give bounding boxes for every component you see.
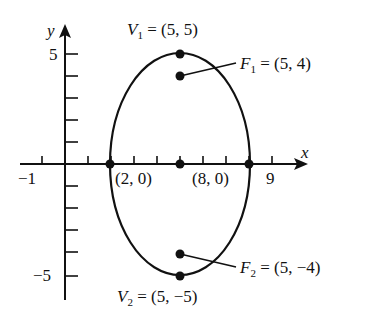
point-f1 <box>176 72 185 81</box>
f2-label: F2 = (5, −4) <box>239 258 320 279</box>
ellipse-diagram: y x 5 −5 −1 9 (2, 0) (8, 0) V1 = (5, 5) … <box>0 0 378 317</box>
right-point-label: (8, 0) <box>192 169 229 188</box>
v2-label: V2 = (5, −5) <box>117 287 197 308</box>
point-right <box>245 160 254 169</box>
point-v1 <box>176 50 185 59</box>
x-tick-label-9: 9 <box>266 169 275 188</box>
f1-leader-line <box>180 63 236 76</box>
left-point-label: (2, 0) <box>115 169 152 188</box>
x-axis-label: x <box>300 143 309 162</box>
f1-label: F1 = (5, 4) <box>239 54 311 75</box>
y-tick-label-5: 5 <box>49 45 58 64</box>
y-tick-label-neg5: −5 <box>33 266 51 285</box>
point-v2 <box>176 272 185 281</box>
x-ticks <box>42 156 272 164</box>
x-tick-label-neg1: −1 <box>18 169 36 188</box>
point-center <box>176 160 185 169</box>
point-left <box>106 160 115 169</box>
v1-label: V1 = (5, 5) <box>127 20 198 41</box>
point-f2 <box>176 250 185 259</box>
y-axis-label: y <box>45 21 55 40</box>
